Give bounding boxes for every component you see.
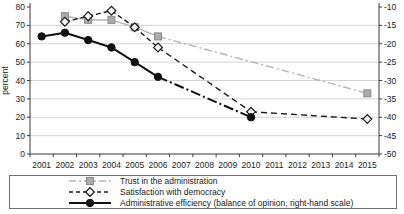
square-marker-icon <box>364 90 371 97</box>
x-tick-label: 2011 <box>265 160 284 170</box>
x-tick-label: 2002 <box>55 160 74 170</box>
y-axis-title: percent <box>0 66 10 95</box>
right-tick-label: -25 <box>384 57 397 67</box>
circle-marker-icon <box>38 33 45 40</box>
series-segment <box>251 112 367 119</box>
right-tick-label: -10 <box>384 2 397 12</box>
left-tick-label: 60 <box>16 39 26 49</box>
x-tick-label: 2005 <box>125 160 144 170</box>
left-tick-label: 0 <box>20 149 25 159</box>
circle-marker-icon <box>68 198 112 208</box>
x-tick-label: 2008 <box>195 160 214 170</box>
gridlines <box>30 25 379 135</box>
x-tick-label: 2014 <box>335 160 354 170</box>
left-tick-label: 40 <box>16 76 26 86</box>
x-tick-label: 2012 <box>288 160 307 170</box>
left-tick-label: 70 <box>16 20 26 30</box>
left-tick-label: 80 <box>16 2 26 12</box>
circle-marker-icon <box>247 114 254 121</box>
x-tick-label: 2015 <box>358 160 377 170</box>
right-tick-label: -50 <box>384 149 397 159</box>
left-tick-label: 10 <box>16 131 26 141</box>
circle-marker-icon <box>86 199 93 206</box>
square-marker-icon <box>154 33 161 40</box>
diamond-marker-icon <box>363 115 372 124</box>
x-tick-label: 2009 <box>218 160 237 170</box>
legend-item-satisfaction: Satisfaction with democracy <box>68 187 396 198</box>
left-tick-label: 50 <box>16 57 26 67</box>
legend-label-satisfaction: Satisfaction with democracy <box>120 187 225 197</box>
series-1 <box>61 6 372 123</box>
left-tick-label: 30 <box>16 94 26 104</box>
series-segment <box>158 77 251 117</box>
legend-label-trust: Trust in the administration <box>120 176 217 186</box>
square-marker-icon <box>68 176 112 186</box>
x-tick-label: 2013 <box>311 160 330 170</box>
x-tick-label: 2004 <box>102 160 121 170</box>
chart-figure: 01020304050607080-50-45-40-35-30-25-20-1… <box>0 0 404 214</box>
right-tick-label: -40 <box>384 112 397 122</box>
right-tick-label: -20 <box>384 39 397 49</box>
x-tick-label: 2010 <box>242 160 261 170</box>
series-segment <box>158 47 251 111</box>
circle-marker-icon <box>84 36 91 43</box>
series-2 <box>38 29 255 121</box>
x-tick-label: 2001 <box>32 160 51 170</box>
right-tick-label: -30 <box>384 76 397 86</box>
square-marker-icon <box>108 16 115 23</box>
square-marker-icon <box>87 178 94 185</box>
x-tick-label: 2007 <box>172 160 191 170</box>
right-tick-label: -15 <box>384 20 397 30</box>
circle-marker-icon <box>154 73 161 80</box>
legend-item-trust: Trust in the administration <box>68 176 396 187</box>
legend-label-efficiency: Administrative efficiency (balance of op… <box>120 198 353 208</box>
series-segment <box>158 36 367 93</box>
right-tick-label: -35 <box>384 94 397 104</box>
circle-marker-icon <box>61 29 68 36</box>
diamond-marker-icon <box>86 188 95 197</box>
diamond-marker-icon <box>107 6 116 15</box>
right-tick-label: -45 <box>384 131 397 141</box>
line-chart: 01020304050607080-50-45-40-35-30-25-20-1… <box>0 0 404 174</box>
x-tick-label: 2003 <box>79 160 98 170</box>
legend-box: Trust in the administration Satisfaction… <box>9 175 397 209</box>
left-tick-label: 20 <box>16 112 26 122</box>
circle-marker-icon <box>108 44 115 51</box>
circle-marker-icon <box>131 58 138 65</box>
x-tick-label: 2006 <box>149 160 168 170</box>
diamond-marker-icon <box>68 187 112 197</box>
legend-item-efficiency: Administrative efficiency (balance of op… <box>68 197 396 208</box>
